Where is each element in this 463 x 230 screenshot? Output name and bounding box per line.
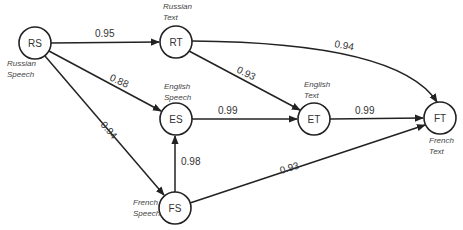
node-es-label: ES (169, 114, 183, 125)
node-ft-caption-1: French (429, 136, 454, 145)
node-ft-label: FT (434, 113, 446, 124)
edge-label-rs-rt: 0.95 (95, 28, 115, 39)
edge-label-es-et: 0.99 (218, 105, 238, 116)
translation-graph: 0.95 0.88 0.94 0.93 0.94 0.99 0.99 0.98 … (0, 0, 463, 230)
node-rs: RS Russian Speech (7, 27, 51, 79)
node-fs-caption-2: Speech (133, 209, 161, 218)
node-es-caption-2: Speech (164, 93, 192, 102)
node-ft-caption-2: Text (429, 147, 445, 156)
node-et-caption-1: English (304, 80, 331, 89)
node-fs-label: FS (169, 203, 182, 214)
node-et-label: ET (308, 114, 321, 125)
node-ft: FT French Text (424, 102, 456, 156)
node-rt: RT Russian Text (160, 2, 192, 58)
edge-label-rt-et: 0.93 (235, 64, 258, 83)
edge-label-rt-ft: 0.94 (334, 38, 356, 52)
edge-label-rs-fs: 0.94 (98, 119, 119, 141)
node-rt-label: RT (169, 37, 182, 48)
edge-label-rs-es: 0.88 (108, 72, 131, 90)
node-et-caption-2: Text (304, 91, 320, 100)
edge-et-ft (330, 118, 423, 119)
node-rs-caption-2: Speech (7, 70, 35, 79)
node-es-caption-1: English (164, 82, 191, 91)
node-fs: FS French Speech (133, 192, 191, 224)
node-rs-caption-1: Russian (7, 59, 36, 68)
node-es: ES English Speech (160, 82, 192, 135)
node-rt-caption-2: Text (163, 13, 179, 22)
edge-label-fs-es: 0.98 (181, 156, 201, 167)
edge-label-et-ft: 0.99 (355, 105, 375, 116)
node-fs-caption-1: French (133, 198, 158, 207)
edge-fs-ft (190, 125, 425, 203)
edge-rt-et (189, 51, 300, 110)
node-rs-label: RS (28, 38, 42, 49)
edge-label-fs-ft: 0.93 (278, 160, 300, 176)
edge-labels: 0.95 0.88 0.94 0.93 0.94 0.99 0.99 0.98 … (95, 28, 375, 176)
node-et: ET English Text (298, 80, 331, 135)
node-rt-caption-1: Russian (163, 2, 192, 11)
edge-rs-rt (51, 42, 159, 43)
